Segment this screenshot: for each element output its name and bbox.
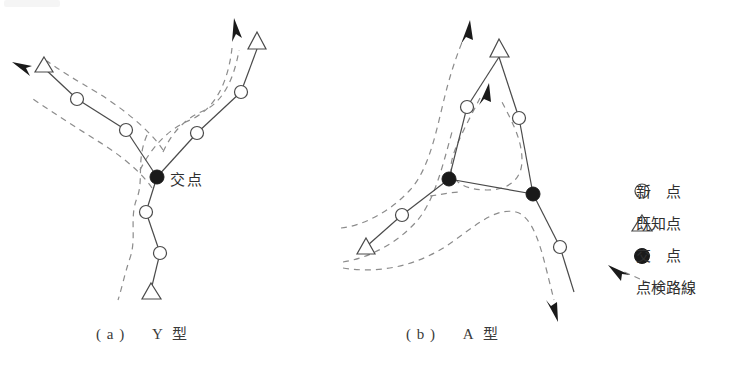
- route-b-left-inner: [343, 132, 452, 262]
- edge-b-apex-right: [499, 57, 519, 118]
- arrowhead-a-right: [232, 18, 242, 42]
- route-b-inner-loop: [451, 98, 522, 190]
- panel-b-route-arrowheads: [461, 20, 558, 322]
- legend-label-inspection-route: 点検路線: [636, 276, 696, 297]
- intersection-point-b-right: [526, 187, 540, 201]
- new-point-a2: [120, 124, 133, 137]
- route-a-right-outer: [140, 48, 232, 170]
- new-point-a6: [154, 247, 167, 260]
- caption-a-type: Y 型: [152, 326, 190, 342]
- legend-item-inspection-route: 点検路線: [636, 276, 696, 297]
- known-point-lower-left: [357, 238, 375, 254]
- panel-b-inspection-routes: [341, 40, 554, 300]
- new-point-b1: [461, 101, 474, 114]
- new-point-b3: [396, 209, 409, 222]
- intersection-point-a: [150, 170, 164, 184]
- edge-a-1-2: [77, 99, 126, 130]
- edge-b-cross: [449, 179, 533, 194]
- arrowhead-b-bottom: [546, 300, 558, 322]
- panel-a-nodes: [35, 32, 266, 299]
- panel-b-nodes: [357, 39, 567, 254]
- panel-b-survey-lines: [368, 57, 574, 292]
- edge-b-right-down: [519, 118, 533, 194]
- panel-a-survey-lines: [44, 49, 257, 290]
- new-point-a5: [140, 206, 153, 219]
- intersection-label-a: 交点: [170, 168, 204, 189]
- caption-a-label: ( a ): [96, 326, 125, 342]
- intersection-point-b-left: [442, 172, 456, 186]
- route-b-left-connector: [430, 192, 462, 196]
- arrowhead-b-top: [461, 20, 473, 44]
- caption-b-label: ( b ): [406, 326, 436, 342]
- legend-label-known-point: 既知点: [636, 212, 681, 233]
- edge-a-4-5: [197, 92, 241, 133]
- known-point-lower: [142, 283, 161, 299]
- new-point-a4: [235, 86, 248, 99]
- legend-item-new-point: 新 点: [636, 180, 681, 201]
- legend-item-known-point: 既知点: [636, 212, 681, 233]
- known-point-apex: [490, 39, 509, 57]
- legend-item-intersection-point: 交 点: [636, 244, 681, 265]
- panel-a-inspection-routes: [30, 48, 239, 300]
- caption-panel-a: ( a ) Y 型: [96, 322, 190, 343]
- known-point-upper-right: [248, 32, 266, 49]
- route-a-left-inner: [47, 61, 163, 150]
- new-point-a3: [191, 127, 204, 140]
- new-point-b2: [513, 112, 526, 125]
- legend-label-intersection-point: 交 点: [636, 244, 681, 265]
- figure-root: 交点 ( a ) Y 型 ( b ) A 型 新 点 既知点 交 点 点検路線: [0, 0, 755, 368]
- route-b-lower-right: [343, 211, 554, 300]
- caption-panel-b: ( b ) A 型: [406, 322, 501, 343]
- new-point-b4: [554, 241, 567, 254]
- arrowhead-a-left: [12, 62, 32, 76]
- edge-b-left-down: [449, 107, 467, 179]
- new-point-a1: [71, 93, 84, 106]
- known-point-upper-left: [35, 57, 53, 72]
- route-b-left-outer: [341, 40, 463, 228]
- caption-b-type: A 型: [463, 326, 501, 342]
- legend-label-new-point: 新 点: [636, 180, 681, 201]
